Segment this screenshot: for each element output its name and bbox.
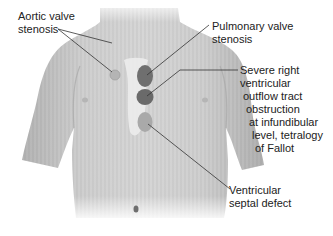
label-line: Severe right	[240, 64, 323, 77]
label-ventricular-septal-defect: Ventricular septal defect	[229, 184, 291, 210]
label-line: level, tetralogy	[240, 129, 323, 142]
label-line: Aortic valve	[18, 10, 75, 23]
right-nipple	[202, 98, 208, 103]
left-nipple	[82, 98, 88, 103]
pulmonary-area	[137, 65, 153, 87]
label-line: obstruction	[240, 103, 323, 116]
label-pulmonary-valve-stenosis: Pulmonary valve stenosis	[212, 20, 293, 46]
label-line: stenosis	[18, 23, 75, 36]
navel	[134, 206, 139, 213]
label-line: at infundibular	[240, 116, 323, 129]
rvot-area	[137, 89, 154, 105]
label-line: Ventricular	[229, 184, 291, 197]
label-line: Pulmonary valve	[212, 20, 293, 33]
label-aortic-valve-stenosis: Aortic valve stenosis	[18, 10, 75, 36]
vsd-area	[138, 112, 153, 132]
label-line: ventricular	[240, 77, 323, 90]
label-line: outflow tract	[240, 90, 323, 103]
label-rvot-obstruction: Severe right ventricular outflow tract o…	[240, 64, 323, 155]
label-line: of Fallot	[240, 142, 323, 155]
label-line: septal defect	[229, 197, 291, 210]
label-line: stenosis	[212, 33, 293, 46]
